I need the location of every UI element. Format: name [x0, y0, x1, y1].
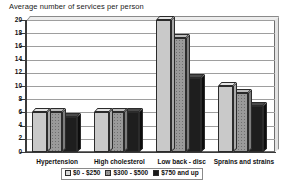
legend-swatch-icon [105, 170, 111, 176]
bar-side-face [171, 16, 175, 152]
bar-side-face [201, 74, 205, 152]
bar-face [156, 20, 171, 152]
bar-side-face [109, 109, 113, 152]
legend-item[interactable]: $300 - $500 [105, 170, 148, 177]
y-axis-tick-label: 0 [18, 149, 22, 156]
chart-legend: $0 - $250$300 - $500$750 and up [61, 168, 203, 180]
y-axis-tick-label: 2 [18, 135, 22, 142]
bars-layer [26, 20, 275, 152]
bar-face [218, 86, 233, 152]
chart-container: Average number of services per person 02… [0, 0, 284, 185]
bar-side-face [186, 35, 190, 152]
legend-item[interactable]: $0 - $250 [65, 170, 100, 177]
x-axis-category-label: Hypertension [26, 159, 88, 166]
plot-back-wall-side [275, 17, 279, 152]
x-axis-category-label: Low back - disc [151, 159, 213, 166]
y-axis-tick-label: 10 [15, 83, 22, 90]
y-axis-tick-label: 16 [15, 43, 22, 50]
y-axis-tick-label: 8 [18, 96, 22, 103]
plot-wrapper: 02468101214161820 [0, 14, 284, 156]
chart-title: Average number of services per person [9, 2, 144, 11]
legend-swatch-icon [65, 170, 71, 176]
bar-face [32, 112, 47, 152]
y-axis-tick-label: 18 [15, 30, 22, 37]
bar-side-face [248, 89, 252, 152]
bar-side-face [263, 102, 267, 152]
bar-group [32, 20, 77, 152]
bar [156, 20, 171, 152]
x-axis-line [25, 152, 276, 153]
legend-label: $0 - $250 [73, 170, 100, 177]
bar [32, 112, 47, 152]
bar-side-face [124, 109, 128, 152]
bar-group [94, 20, 139, 152]
y-axis-tick-label: 6 [18, 109, 22, 116]
bar-face [94, 112, 109, 152]
bar-side-face [47, 109, 51, 152]
legend-item[interactable]: $750 and up [153, 170, 199, 177]
y-axis-tick-label: 4 [18, 122, 22, 129]
x-axis-category-label: Sprains and strains [213, 159, 275, 166]
y-axis-tick-label: 12 [15, 69, 22, 76]
bar-group [156, 20, 201, 152]
y-axis-tick-label: 20 [15, 17, 22, 24]
x-axis-category-label: High cholesterol [88, 159, 150, 166]
bar-side-face [233, 82, 237, 152]
bar-side-face [62, 109, 66, 152]
legend-label: $750 and up [161, 170, 199, 177]
y-axis-tick-label: 14 [15, 56, 22, 63]
legend-label: $300 - $500 [113, 170, 148, 177]
bar [218, 86, 233, 152]
legend-swatch-icon [153, 170, 159, 176]
bar-side-face [139, 109, 143, 152]
bar-group [218, 20, 263, 152]
bar-side-face [77, 113, 81, 152]
bar [94, 112, 109, 152]
